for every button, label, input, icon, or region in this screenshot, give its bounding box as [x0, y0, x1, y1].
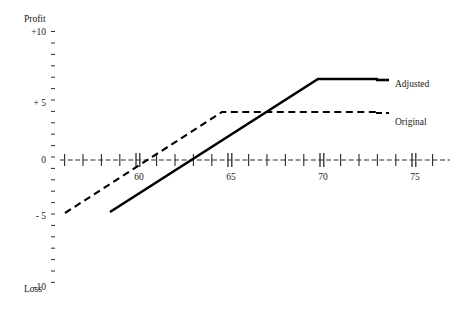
x-tick-label-75: 75	[410, 172, 420, 182]
y-tick-label-10: +10	[31, 27, 46, 37]
x-tick-label-60: 60	[134, 172, 144, 182]
x-axis-ticks	[65, 153, 433, 167]
series-line-original	[65, 112, 378, 213]
x-tick-label-70: 70	[318, 172, 328, 182]
legend-label-adjusted: Adjusted	[395, 79, 430, 89]
y-axis-top-label: Profit	[24, 14, 46, 24]
profit-loss-chart: Profit Loss +10 + 5 0 - 5 -10	[0, 0, 454, 327]
chart-canvas: Profit Loss +10 + 5 0 - 5 -10	[0, 0, 454, 327]
y-tick-label-neg10: -10	[33, 282, 46, 292]
legend-label-original: Original	[395, 117, 427, 127]
series-line-adjusted	[110, 79, 378, 212]
y-axis-ticks	[51, 32, 55, 283]
y-tick-label-5: + 5	[34, 98, 47, 108]
x-tick-label-65: 65	[226, 172, 236, 182]
y-tick-label-neg5: - 5	[36, 211, 47, 221]
y-tick-label-0: 0	[41, 155, 46, 165]
